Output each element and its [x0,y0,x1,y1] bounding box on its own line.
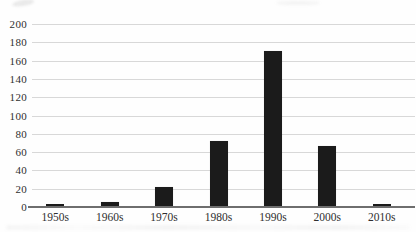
gridline [32,116,415,117]
gridline [32,97,415,98]
gridline [32,42,415,43]
bar-1990s [264,51,282,207]
gridline [32,61,415,62]
scan-artifact-smudge [6,225,410,230]
y-tick-label: 140 [10,73,27,85]
x-tick-label: 1980s [205,211,232,223]
x-tick-label: 1990s [259,211,286,223]
x-tick-label: 2010s [368,211,395,223]
bar-2000s [318,146,336,207]
y-tick-label: 80 [15,128,27,140]
x-axis-line [28,206,415,208]
y-tick-label: 160 [10,55,27,67]
y-tick-label: 20 [15,183,27,195]
y-tick-label: 180 [10,36,27,48]
x-tick-label: 1970s [150,211,177,223]
gridline [32,24,415,25]
x-tick-label: 2000s [314,211,341,223]
y-tick-label: 40 [15,164,27,176]
y-tick-label: 120 [10,91,27,103]
y-tick-label: 0 [21,201,27,213]
gridline [32,134,415,135]
scanned-bar-chart: 020406080100120140160180200 1950s1960s19… [0,0,416,232]
scan-artifact-smudge [12,0,35,8]
scan-artifact-smudge [276,1,320,5]
chart-plot-area [28,24,409,207]
bar-1980s [210,141,228,207]
y-tick-label: 100 [10,110,27,122]
gridline [32,79,415,80]
y-tick-label: 60 [15,146,27,158]
y-tick-label: 200 [10,18,27,30]
x-tick-label: 1950s [41,211,68,223]
bar-1970s [155,187,173,207]
x-tick-label: 1960s [96,211,123,223]
